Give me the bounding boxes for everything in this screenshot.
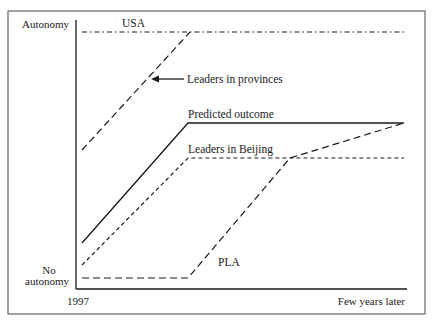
provinces-label: Leaders in provinces [187,73,283,86]
outer-frame [8,11,425,314]
arrow-left-icon [151,76,159,83]
predicted-outcome-label: Predicted outcome [188,108,274,120]
x-axis-end-label: Few years later [338,295,406,307]
beijing-label: Leaders in Beijing [188,143,273,156]
y-axis-top-label: Autonomy [22,18,70,30]
predicted-outcome-line [82,123,404,243]
x-axis-start-label: 1997 [67,295,90,307]
beijing-line [82,158,404,265]
pla-label: PLA [218,256,240,268]
provinces-line [82,32,190,150]
usa-label: USA [122,17,146,29]
y-axis-bottom-label-line2: autonomy [25,275,69,287]
autonomy-diagram: Autonomy No autonomy 1997 Few years late… [0,0,432,323]
